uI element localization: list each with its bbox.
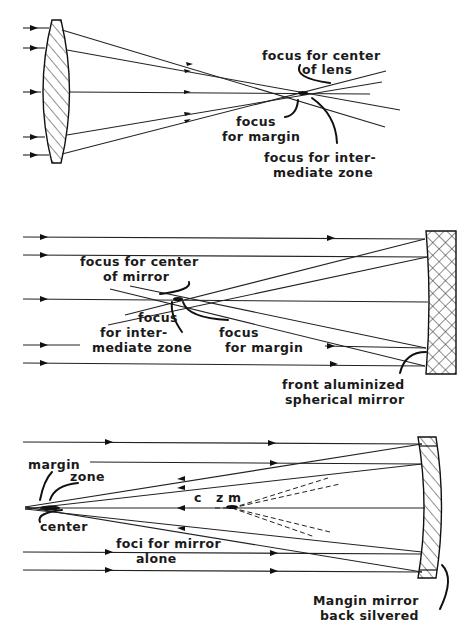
label-focus-intermediate-1: focus for inter- bbox=[264, 150, 376, 165]
label-focus-margin-1: focus bbox=[219, 325, 259, 340]
label-z: z bbox=[216, 490, 224, 505]
ray bbox=[25, 507, 422, 572]
arrow-icon bbox=[30, 25, 38, 31]
arrow-icon bbox=[330, 361, 338, 367]
label-mangin-2: back silvered bbox=[320, 608, 419, 623]
arrow-icon bbox=[30, 89, 38, 95]
incoming-rays bbox=[23, 439, 422, 574]
focus-point bbox=[173, 297, 183, 301]
arrow-icon bbox=[270, 568, 278, 574]
optics-diagram: focus for center of lens focus for margi… bbox=[0, 0, 472, 630]
arrow-icon bbox=[186, 62, 193, 66]
incoming-ray bbox=[23, 442, 422, 444]
label-focus-center-mirror-2: of mirror bbox=[103, 269, 170, 284]
label-center: center bbox=[40, 519, 88, 534]
arrow-icon bbox=[270, 550, 278, 556]
incoming-ray bbox=[23, 363, 425, 366]
arrow-icon bbox=[177, 485, 185, 490]
arrow-icon bbox=[327, 235, 335, 241]
label-front-aluminized-1: front aluminized bbox=[282, 377, 405, 392]
label-zone: zone bbox=[70, 469, 105, 484]
label-focus-intermediate-1: focus bbox=[138, 310, 178, 325]
label-focus-intermediate-3: mediate zone bbox=[92, 340, 192, 355]
label-foci-2: alone bbox=[136, 551, 177, 566]
label-foci-1: foci for mirror bbox=[116, 536, 221, 551]
incoming-ray bbox=[23, 237, 425, 239]
leader-line bbox=[50, 483, 78, 500]
leader-line bbox=[400, 352, 426, 373]
arrow-icon bbox=[105, 439, 113, 445]
arrow-icon bbox=[30, 152, 38, 158]
label-focus-margin-2: for margin bbox=[225, 340, 303, 355]
arrow-icon bbox=[105, 549, 113, 555]
incoming-ray bbox=[23, 570, 422, 572]
label-m: m bbox=[228, 490, 241, 505]
label-c: c bbox=[194, 490, 202, 505]
label-focus-intermediate-2: mediate zone bbox=[273, 165, 373, 180]
arrow-icon bbox=[177, 526, 185, 531]
front-aluminized-mirror bbox=[426, 231, 456, 374]
label-focus-intermediate-2: for inter- bbox=[100, 325, 168, 340]
label-mangin-1: Mangin mirror bbox=[313, 593, 419, 608]
incoming-ray bbox=[90, 462, 422, 464]
focus-point bbox=[226, 505, 238, 509]
label-front-aluminized-2: spherical mirror bbox=[285, 392, 405, 407]
panel-spherical-mirror: focus for center of mirror focus for int… bbox=[23, 231, 456, 407]
leader-line bbox=[285, 100, 298, 117]
arrow-icon bbox=[177, 505, 185, 511]
label-focus-margin-1: focus bbox=[236, 114, 276, 129]
ray bbox=[70, 92, 370, 94]
arrow-icon bbox=[40, 252, 48, 258]
focus-point bbox=[298, 91, 308, 95]
leader-line bbox=[40, 472, 52, 500]
label-focus-center-lens-2: of lens bbox=[302, 62, 352, 77]
arrow-icon bbox=[184, 90, 191, 94]
label-focus-center-mirror-1: focus for center bbox=[80, 254, 199, 269]
arrow-icon bbox=[40, 234, 48, 240]
label-focus-margin-2: for margin bbox=[222, 129, 300, 144]
arrow-icon bbox=[40, 342, 48, 348]
arrow-icon bbox=[268, 440, 276, 446]
arrow-icon bbox=[270, 460, 278, 466]
dashed-ray bbox=[232, 478, 328, 508]
arrow-icon bbox=[40, 296, 48, 302]
leader-line bbox=[312, 98, 337, 143]
incoming-ray bbox=[325, 346, 426, 348]
arrow-icon bbox=[177, 476, 185, 481]
lens-shape bbox=[43, 20, 70, 163]
arrow-icon bbox=[30, 134, 38, 140]
panel-mangin-mirror: margin zone center c z m foci for mirror… bbox=[23, 437, 448, 623]
arrow-icon bbox=[105, 567, 113, 573]
dashed-ray bbox=[232, 508, 330, 532]
incoming-ray bbox=[23, 552, 422, 554]
arrow-icon bbox=[40, 360, 48, 366]
dashed-ray bbox=[232, 484, 340, 508]
leader-line bbox=[440, 565, 448, 609]
label-focus-center-lens-1: focus for center bbox=[262, 48, 381, 63]
panel-lens: focus for center of lens focus for margi… bbox=[23, 20, 400, 180]
arrow-icon bbox=[30, 45, 38, 51]
